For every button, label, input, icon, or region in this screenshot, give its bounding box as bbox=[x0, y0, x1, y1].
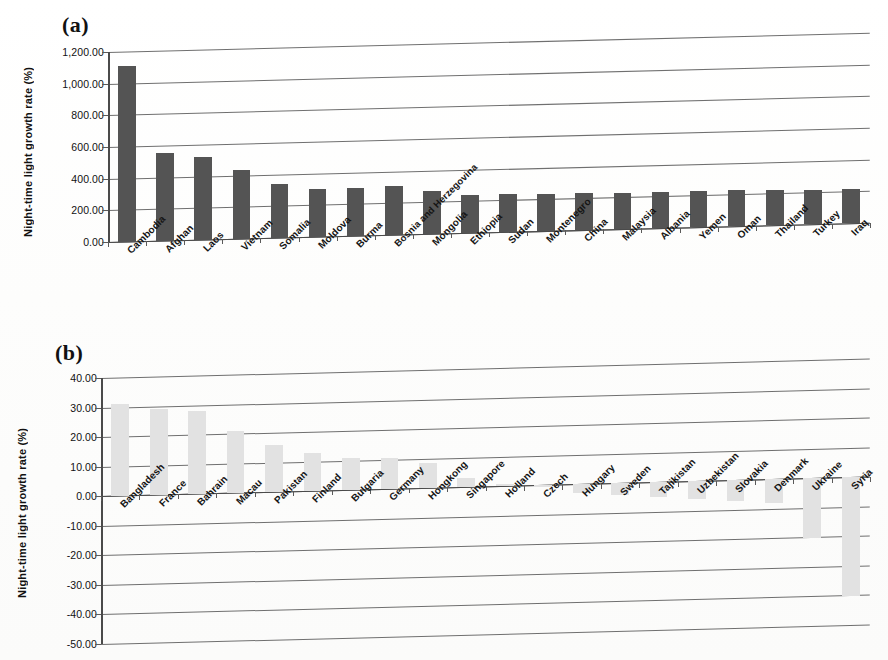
bar bbox=[385, 186, 403, 235]
panel-a-label: (a) bbox=[62, 12, 89, 38]
panel-a-y-axis-title: Night-time light growth rate (%) bbox=[22, 62, 34, 242]
y-tick-label: -10.00 bbox=[67, 520, 97, 532]
bar bbox=[309, 189, 327, 237]
bar bbox=[271, 184, 289, 238]
bar bbox=[766, 190, 784, 225]
y-tick-label: -40.00 bbox=[67, 608, 97, 620]
y-tick-label: 0.00 bbox=[76, 490, 97, 502]
bar bbox=[265, 445, 283, 492]
y-tick-label: 20.00 bbox=[70, 431, 97, 443]
bar bbox=[194, 157, 212, 240]
y-tick-label: 400.00 bbox=[71, 173, 104, 185]
y-tick-label: 0.00 bbox=[83, 236, 104, 248]
panel-b-y-axis-title: Night-time light growth rate (%) bbox=[16, 413, 28, 613]
y-tick-label: 10.00 bbox=[70, 461, 97, 473]
panel-b-bars bbox=[101, 378, 870, 644]
y-tick-label: 200.00 bbox=[71, 204, 104, 216]
y-tick-label: -30.00 bbox=[67, 579, 97, 591]
gridline bbox=[108, 33, 870, 53]
y-tick-label: 40.00 bbox=[70, 372, 97, 384]
bar bbox=[347, 188, 365, 236]
y-tick-label: 30.00 bbox=[70, 402, 97, 414]
bar bbox=[537, 194, 555, 231]
bar bbox=[728, 190, 746, 226]
y-tick-mark bbox=[95, 644, 101, 645]
bar bbox=[304, 453, 322, 491]
bar bbox=[233, 170, 251, 239]
bar bbox=[690, 191, 708, 227]
bar bbox=[118, 66, 136, 242]
gridline bbox=[101, 359, 870, 379]
bar bbox=[614, 193, 632, 230]
y-tick-label: 600.00 bbox=[71, 141, 104, 153]
category-tick-mark bbox=[870, 223, 871, 228]
bar bbox=[499, 194, 517, 232]
panel-b-plot-area bbox=[101, 378, 870, 644]
y-tick-label: 1,000.00 bbox=[62, 78, 104, 90]
bar bbox=[111, 404, 129, 496]
panel-b-label: (b) bbox=[55, 340, 83, 366]
chart-panel-b: (b) Night-time light growth rate (%) 40.… bbox=[0, 335, 888, 660]
page-caption-smudge bbox=[430, 644, 870, 658]
y-tick-label: -50.00 bbox=[67, 638, 97, 650]
bar bbox=[227, 431, 245, 493]
y-tick-label: 800.00 bbox=[71, 109, 104, 121]
bar bbox=[842, 189, 860, 223]
y-tick-label: -20.00 bbox=[67, 549, 97, 561]
bar bbox=[342, 458, 360, 491]
bar bbox=[842, 477, 860, 595]
category-tick-mark bbox=[108, 242, 109, 247]
bar bbox=[188, 411, 206, 494]
chart-panel-a: (a) Night-time light growth rate (%) 1,2… bbox=[0, 0, 888, 335]
y-tick-label: 1,200.00 bbox=[62, 46, 104, 58]
